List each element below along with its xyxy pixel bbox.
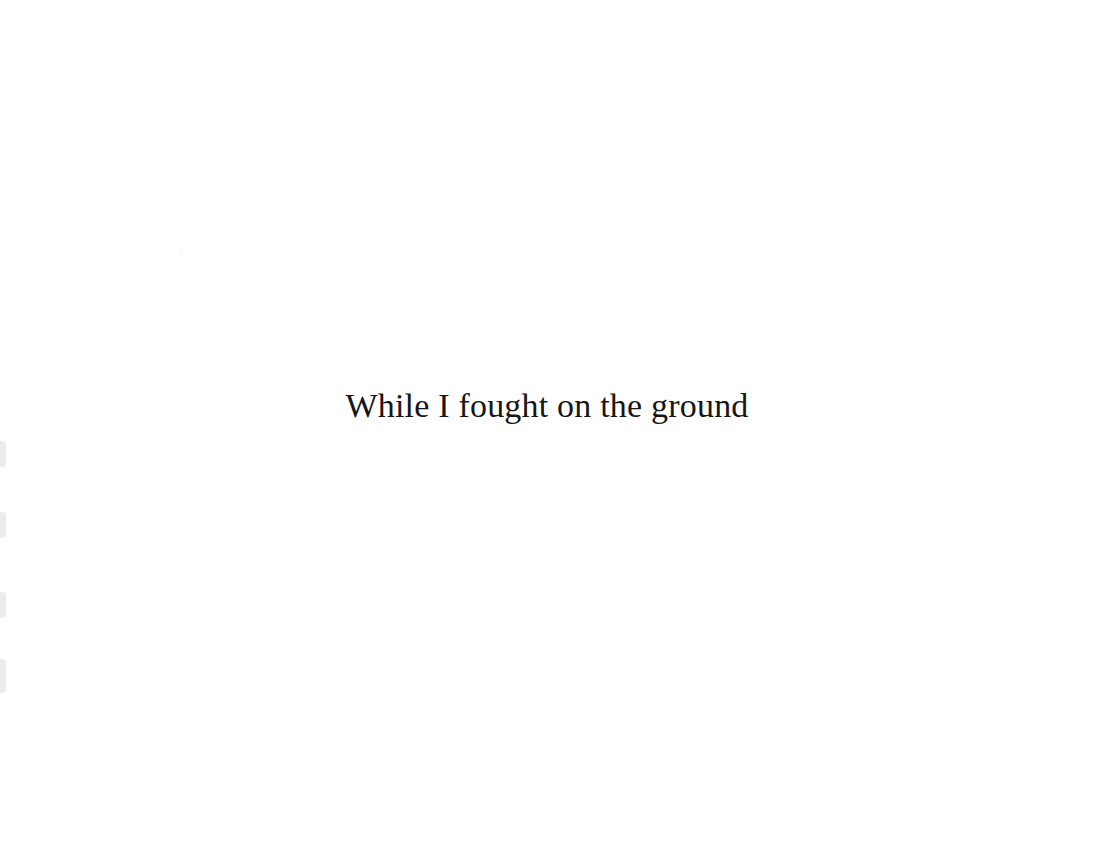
- faint-artifact: [178, 247, 184, 256]
- caption-area: While I fought on the ground: [0, 0, 1094, 861]
- caption-text: While I fought on the ground: [345, 387, 748, 425]
- slide-canvas: While I fought on the ground: [0, 0, 1094, 861]
- edge-chip[interactable]: [0, 592, 6, 618]
- clipped-left-control-strip[interactable]: [0, 0, 7, 861]
- edge-chip[interactable]: [0, 441, 6, 467]
- edge-chip[interactable]: [0, 659, 6, 693]
- edge-chip[interactable]: [0, 512, 6, 538]
